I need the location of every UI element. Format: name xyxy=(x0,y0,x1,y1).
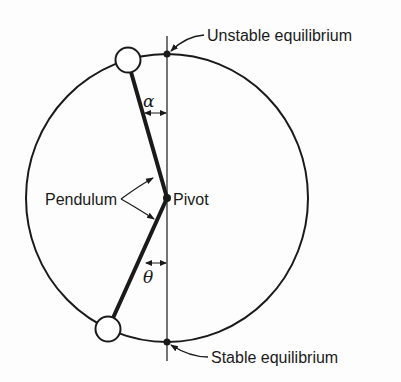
diagram-svg: Unstable equilibrium Stable equilibrium … xyxy=(0,0,401,382)
unstable-equilibrium-point xyxy=(164,51,171,58)
alpha-label: α xyxy=(143,91,155,111)
pendulum-diagram: Unstable equilibrium Stable equilibrium … xyxy=(0,0,401,382)
pendulum-leader-lower xyxy=(121,199,154,219)
pendulum-arm-lower xyxy=(113,198,167,318)
unstable-leader-arrow xyxy=(171,35,204,51)
stable-equilibrium-point xyxy=(164,339,171,346)
pendulum-bob-top xyxy=(116,48,141,73)
pendulum-leader-upper xyxy=(121,178,153,199)
pendulum-label: Pendulum xyxy=(45,191,117,208)
unstable-equilibrium-label: Unstable equilibrium xyxy=(207,27,352,44)
pendulum-bob-bottom xyxy=(96,317,121,342)
pivot-point xyxy=(163,194,171,202)
pivot-label: Pivot xyxy=(173,191,209,208)
stable-leader-arrow xyxy=(171,345,208,357)
stable-equilibrium-label: Stable equilibrium xyxy=(211,349,338,366)
theta-label: θ xyxy=(143,267,153,287)
